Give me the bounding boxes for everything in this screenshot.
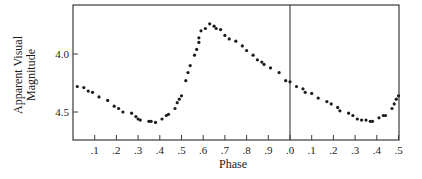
data-point <box>390 107 393 110</box>
data-point <box>87 90 90 93</box>
data-point <box>256 58 259 61</box>
x-axis-label: Phase <box>219 157 247 172</box>
light-curve-chart: .1.2.3.4.5.6.7.8.9.0.1.2.3.4.5 4.04.5 <box>0 0 422 179</box>
x-tick-label: .2 <box>329 144 337 156</box>
data-point <box>317 97 320 100</box>
data-point <box>160 117 163 120</box>
data-point <box>234 40 237 43</box>
data-point <box>130 112 133 115</box>
data-point <box>384 114 387 117</box>
data-point <box>91 91 94 94</box>
data-point <box>377 116 380 119</box>
data-point <box>301 87 304 90</box>
data-point <box>336 106 339 109</box>
x-tick-label: .1 <box>91 144 99 156</box>
data-point <box>347 112 350 115</box>
x-tick-label: .4 <box>373 144 382 156</box>
data-point <box>360 119 363 122</box>
x-axis-ticks: .1.2.3.4.5.6.7.8.9.0.1.2.3.4.5 <box>91 135 404 156</box>
data-point <box>245 49 248 52</box>
y-tick-label: 4.0 <box>55 48 69 60</box>
data-point <box>178 98 181 101</box>
y-axis-ticks: 4.04.5 <box>55 48 78 118</box>
data-point <box>199 29 202 32</box>
data-point <box>76 85 79 88</box>
x-tick-label: .1 <box>308 144 316 156</box>
data-point <box>397 94 400 97</box>
data-point <box>356 117 359 120</box>
data-point <box>82 86 85 89</box>
data-point <box>241 44 244 47</box>
data-point <box>338 109 341 112</box>
x-tick-label: .3 <box>351 144 360 156</box>
data-point <box>189 64 192 67</box>
data-point <box>113 105 116 108</box>
data-point <box>295 85 298 88</box>
data-point <box>184 79 187 82</box>
data-point <box>197 36 200 39</box>
data-point <box>167 113 170 116</box>
y-axis-label-line-2: Magnitude <box>25 36 38 114</box>
data-point <box>393 102 396 105</box>
data-point <box>252 54 255 57</box>
data-point <box>154 121 157 124</box>
data-point <box>193 54 196 57</box>
data-point <box>304 91 307 94</box>
data-point <box>351 114 354 117</box>
data-point <box>330 102 333 105</box>
x-tick-label: .0 <box>286 144 295 156</box>
data-point <box>97 95 100 98</box>
data-points <box>76 22 400 124</box>
data-point <box>269 66 272 69</box>
data-point <box>228 37 231 40</box>
data-point <box>134 115 137 118</box>
data-point <box>262 63 265 66</box>
x-tick-label: .6 <box>199 144 208 156</box>
x-tick-label: .7 <box>221 144 230 156</box>
data-point <box>215 27 218 30</box>
data-point <box>106 99 109 102</box>
data-point <box>284 79 287 82</box>
x-tick-label: .9 <box>264 144 273 156</box>
data-point <box>223 34 226 37</box>
data-point <box>173 107 176 110</box>
y-axis-label: Apparent Visual Magnitude <box>3 20 47 130</box>
data-point <box>208 22 211 25</box>
data-point <box>176 101 179 104</box>
data-point <box>150 120 153 123</box>
x-tick-label: .8 <box>242 144 251 156</box>
data-point <box>219 28 222 31</box>
data-point <box>371 120 374 123</box>
data-point <box>278 71 281 74</box>
data-point <box>204 27 207 30</box>
data-point <box>121 110 124 113</box>
y-tick-label: 4.5 <box>55 106 69 118</box>
x-tick-label: .2 <box>112 144 120 156</box>
plot-frame <box>73 5 399 140</box>
data-point <box>186 71 189 74</box>
data-point <box>197 41 200 44</box>
data-point <box>288 80 291 83</box>
x-tick-label: .5 <box>394 144 403 156</box>
data-point <box>364 119 367 122</box>
data-point <box>310 92 313 95</box>
x-tick-label: .5 <box>177 144 186 156</box>
data-point <box>195 48 198 51</box>
data-point <box>180 94 183 97</box>
data-point <box>395 98 398 101</box>
data-point <box>117 107 120 110</box>
x-tick-label: .3 <box>134 144 143 156</box>
data-point <box>139 119 142 122</box>
x-tick-label: .4 <box>156 144 165 156</box>
data-point <box>325 100 328 103</box>
